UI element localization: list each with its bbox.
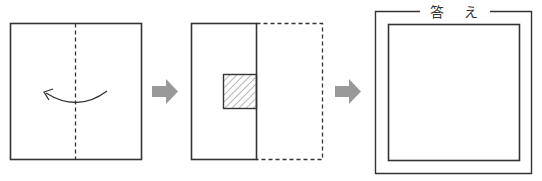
answer-box[interactable] bbox=[389, 25, 520, 161]
arrow-right-icon bbox=[335, 79, 361, 104]
unfolded-half-dashed bbox=[257, 24, 323, 160]
step-2-sheet bbox=[192, 24, 323, 160]
arrow-right-icon bbox=[152, 79, 178, 104]
answer-label: 答 え bbox=[420, 2, 490, 22]
hatched-cut-square bbox=[224, 75, 257, 109]
answer-outer-border bbox=[376, 12, 532, 174]
step-1-sheet bbox=[11, 24, 142, 160]
folding-diagram: 答 え bbox=[0, 0, 542, 181]
diagram-canvas bbox=[0, 0, 542, 181]
answer-frame bbox=[376, 12, 532, 174]
curved-fold-arrow-icon bbox=[46, 91, 107, 103]
